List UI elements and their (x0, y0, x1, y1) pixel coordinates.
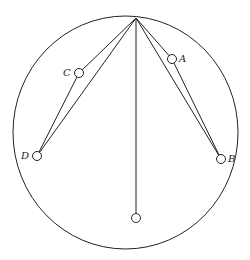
label-b: B (227, 153, 235, 164)
segment-apex-to-c (79, 18, 136, 73)
ring-c (75, 69, 84, 78)
diagram-svg: A B C D (0, 0, 250, 260)
ring-bottom (132, 214, 141, 223)
ring-b (217, 155, 226, 164)
label-a: A (178, 53, 186, 64)
label-c: C (63, 67, 71, 78)
chord-apex-to-d (37, 18, 136, 156)
outer-circle (13, 16, 238, 249)
ring-a (168, 55, 177, 64)
segment-c-to-d (37, 73, 79, 156)
label-d: D (20, 150, 29, 161)
chord-apex-to-b (136, 18, 221, 159)
segment-a-to-b (172, 59, 221, 159)
diagram-canvas: A B C D (0, 0, 250, 260)
ring-d (33, 152, 42, 161)
